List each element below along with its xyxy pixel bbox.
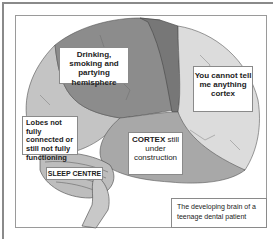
callout-cortex-construction: CORTEX still under construction	[128, 132, 183, 175]
cortex-bold-text: CORTEX	[132, 135, 165, 144]
callout-cortex-right: You cannot tell me anything cortex	[193, 66, 253, 112]
callout-hemisphere: Drinking, smoking and partying hemispher…	[59, 47, 129, 84]
caption-box: The developing brain of a teenage dental…	[171, 198, 267, 228]
callout-sleep-centre: SLEEP CENTRE	[46, 167, 103, 180]
callout-lobes: Lobes not fully connected or still not f…	[22, 116, 78, 155]
